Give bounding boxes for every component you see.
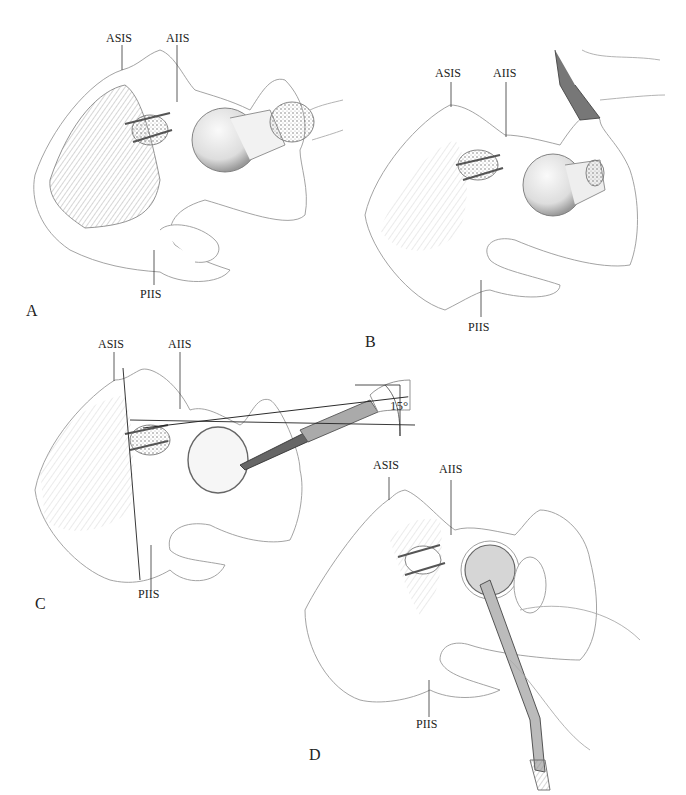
panel-c-asis-label: ASIS <box>98 337 124 352</box>
panel-a-aiis-label: AIIS <box>166 31 189 46</box>
panel-b-asis-label: ASIS <box>435 66 461 81</box>
panel-d-aiis-label: AIIS <box>439 462 462 477</box>
panel-d-letter: D <box>309 746 321 764</box>
panel-a-drawing <box>34 50 343 282</box>
panel-b-drawing <box>365 50 665 310</box>
panel-b-piis-label: PIIS <box>468 320 489 335</box>
surgical-illustration-figure: ASIS AIIS PIIS A ASIS AIIS PIIS B ASIS A… <box>0 0 686 795</box>
panel-b-letter: B <box>365 333 376 351</box>
panel-c-letter: C <box>35 595 46 613</box>
panel-c-angle-label: 15° <box>390 398 408 414</box>
panel-d-piis-label: PIIS <box>416 717 437 732</box>
panel-a-piis-label: PIIS <box>140 287 161 302</box>
panel-c-piis-label: PIIS <box>138 587 159 602</box>
panel-a-asis-label: ASIS <box>106 31 132 46</box>
panel-d-asis-label: ASIS <box>373 458 399 473</box>
panel-b-aiis-label: AIIS <box>493 66 516 81</box>
panel-c-aiis-label: AIIS <box>168 337 191 352</box>
illustration-drawing <box>0 0 686 795</box>
panel-d-drawing <box>305 490 640 790</box>
panel-a-letter: A <box>26 302 38 320</box>
